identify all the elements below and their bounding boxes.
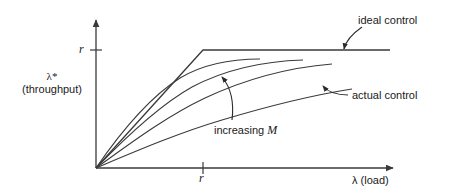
increasing-m-leader-arrow: [222, 77, 233, 120]
y-axis-label-text: (throughput): [14, 83, 90, 96]
curve-actual-m4: [96, 59, 260, 168]
y-axis-tick-label-r: r: [79, 43, 84, 56]
annotation-increasing-m-prefix: increasing: [214, 124, 267, 136]
y-axis-label: λ* (throughput): [14, 70, 90, 96]
annotation-ideal-control: ideal control: [358, 14, 417, 27]
x-axis-label: λ (load): [352, 174, 389, 187]
y-axis-label-symbol: λ*: [14, 70, 90, 83]
ideal-control-leader-arrow: [344, 27, 362, 49]
x-axis-tick-label-r: r: [199, 172, 204, 185]
annotation-increasing-m-symbol: M: [267, 123, 277, 137]
curve-actual-m3: [96, 60, 303, 168]
curve-actual-m2: [96, 64, 332, 168]
annotation-increasing-m: increasing M: [214, 124, 277, 137]
annotation-actual-control: actual control: [352, 89, 417, 102]
figure-container: λ* (throughput) r r λ (load) ideal contr…: [0, 0, 449, 194]
